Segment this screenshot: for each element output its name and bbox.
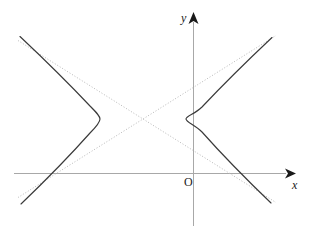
asymptotes-group: [18, 36, 276, 203]
hyperbola-figure: y x O: [0, 0, 311, 234]
hyperbola-right-branch: [186, 38, 272, 204]
y-axis-label: y: [181, 12, 186, 24]
x-axis-label: x: [292, 179, 297, 191]
axes-group: [14, 12, 296, 226]
asymptote-falling: [18, 41, 276, 203]
figure-canvas: [0, 0, 311, 234]
origin-label: O: [184, 176, 193, 188]
x-axis-arrowhead: [285, 169, 296, 179]
hyperbola-left-branch: [20, 37, 100, 205]
